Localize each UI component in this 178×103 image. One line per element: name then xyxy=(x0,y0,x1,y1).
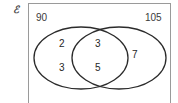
universal-set-symbol: ℰ xyxy=(9,3,23,17)
intersection-upper-value: 3 xyxy=(95,38,101,49)
right-total-label: 105 xyxy=(145,12,162,23)
left-set-ellipse xyxy=(34,27,128,89)
right-only-value: 7 xyxy=(132,49,138,60)
right-set-ellipse xyxy=(72,27,166,89)
left-total-label: 90 xyxy=(36,12,47,23)
left-only-upper-value: 2 xyxy=(59,38,65,49)
venn-diagram-figure: ℰ 90 105 2 3 3 5 7 xyxy=(0,0,178,103)
left-only-lower-value: 3 xyxy=(59,62,65,73)
intersection-lower-value: 5 xyxy=(95,62,101,73)
